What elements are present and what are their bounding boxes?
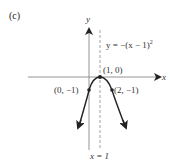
equation-label: y = −(x − 1)2 xyxy=(106,39,153,50)
y-axis-label: y xyxy=(85,14,90,24)
x-axis-label: x xyxy=(161,72,166,82)
right-arrow xyxy=(123,120,126,128)
vertex-point xyxy=(98,75,102,79)
point-left xyxy=(87,88,91,92)
point-left-label: (0, −1) xyxy=(54,85,79,95)
graph: (c) x y (1, 0) (0, −1) (2, −1) y = −(x −… xyxy=(0,0,170,163)
symmetry-label: x = 1 xyxy=(89,151,109,161)
panel-label: (c) xyxy=(9,10,20,22)
left-arrow xyxy=(78,120,81,128)
vertex-label: (1, 0) xyxy=(103,65,123,75)
point-right-label: (2, −1) xyxy=(114,85,139,95)
